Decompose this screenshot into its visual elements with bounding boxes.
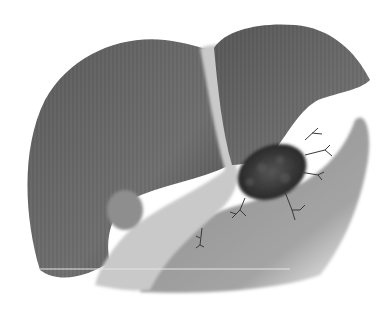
gallbladder bbox=[107, 190, 143, 230]
illustration-canvas bbox=[0, 0, 391, 312]
highlight bbox=[302, 120, 315, 137]
liver-illustration bbox=[0, 0, 391, 312]
